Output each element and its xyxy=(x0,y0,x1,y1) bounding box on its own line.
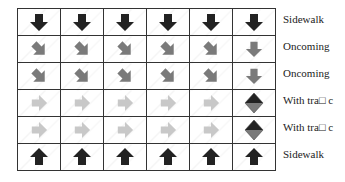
grid-cell xyxy=(104,90,147,117)
grid-cell xyxy=(104,36,147,63)
grid-cell xyxy=(233,36,276,63)
grid-cell xyxy=(104,63,147,90)
arrow-right-icon xyxy=(104,121,146,139)
arrow-diagonal-icon xyxy=(190,40,232,58)
grid-cell xyxy=(147,63,190,90)
arrow-right-icon xyxy=(147,121,189,139)
arrow-down-icon xyxy=(61,12,103,32)
arrow-down-icon xyxy=(147,12,189,32)
arrow-diagonal-icon xyxy=(147,40,189,58)
arrow-right-icon xyxy=(61,121,103,139)
grid-cell xyxy=(61,117,104,144)
grid-cell xyxy=(233,63,276,90)
grid-cell xyxy=(190,144,233,171)
grid-cell xyxy=(18,117,61,144)
grid-row xyxy=(18,36,276,63)
grid-cell xyxy=(61,63,104,90)
arrow-diagonal-icon xyxy=(104,40,146,58)
arrow-down-icon xyxy=(18,12,60,32)
grid-cell xyxy=(147,144,190,171)
grid-cell xyxy=(18,90,61,117)
grid-cell xyxy=(18,9,61,36)
grid-cell xyxy=(190,9,233,36)
grid-cell xyxy=(190,36,233,63)
arrow-down-icon xyxy=(190,12,232,32)
arrow-right-icon xyxy=(147,94,189,112)
row-label-oncoming-2: Oncoming xyxy=(283,67,329,79)
grid-cell xyxy=(147,117,190,144)
grid-cell xyxy=(147,90,190,117)
arrow-diagonal-icon xyxy=(18,40,60,58)
grid-row xyxy=(18,9,276,36)
grid-cell xyxy=(104,9,147,36)
arrow-diagonal-icon xyxy=(147,67,189,85)
arrow-down-icon xyxy=(233,67,275,85)
row-label-sidewalk-top: Sidewalk xyxy=(283,13,324,25)
arrow-up-icon xyxy=(190,147,232,167)
arrow-up-icon xyxy=(147,147,189,167)
grid-cell xyxy=(233,144,276,171)
arrow-diagonal-icon xyxy=(190,67,232,85)
grid-cell xyxy=(233,9,276,36)
diamond-icon xyxy=(233,119,275,141)
grid-cell xyxy=(147,9,190,36)
grid-cell xyxy=(18,144,61,171)
grid-cell xyxy=(190,63,233,90)
arrow-diagonal-icon xyxy=(61,40,103,58)
grid-cell xyxy=(104,144,147,171)
arrow-right-icon xyxy=(104,94,146,112)
arrow-up-icon xyxy=(233,147,275,167)
arrow-diagonal-icon xyxy=(18,67,60,85)
row-label-with-traffic-1: With tra□ c xyxy=(283,94,333,106)
arrow-up-icon xyxy=(104,147,146,167)
grid-row xyxy=(18,144,276,171)
grid-cell xyxy=(61,90,104,117)
grid-cell xyxy=(18,36,61,63)
diamond-icon xyxy=(233,92,275,114)
grid-cell xyxy=(190,117,233,144)
grid-row xyxy=(18,117,276,144)
grid-row xyxy=(18,63,276,90)
arrow-diagonal-icon xyxy=(61,67,103,85)
grid-cell xyxy=(190,90,233,117)
arrow-down-icon xyxy=(233,12,275,32)
grid-cell xyxy=(61,36,104,63)
arrow-right-icon xyxy=(18,121,60,139)
row-label-with-traffic-2: With tra□ c xyxy=(283,121,333,133)
arrow-right-icon xyxy=(190,121,232,139)
grid-cell xyxy=(61,144,104,171)
row-label-sidewalk-bottom: Sidewalk xyxy=(283,148,324,160)
row-label-oncoming-1: Oncoming xyxy=(283,40,329,52)
grid-cell xyxy=(61,9,104,36)
grid-cell xyxy=(233,117,276,144)
arrow-down-icon xyxy=(233,40,275,58)
arrow-diagonal-icon xyxy=(104,67,146,85)
arrow-right-icon xyxy=(190,94,232,112)
arrow-right-icon xyxy=(61,94,103,112)
arrow-down-icon xyxy=(104,12,146,32)
arrow-right-icon xyxy=(18,94,60,112)
grid-cell xyxy=(104,117,147,144)
lane-grid xyxy=(17,8,276,171)
grid-cell xyxy=(18,63,61,90)
arrow-up-icon xyxy=(61,147,103,167)
grid-cell xyxy=(233,90,276,117)
grid-row xyxy=(18,90,276,117)
grid-cell xyxy=(147,36,190,63)
arrow-up-icon xyxy=(18,147,60,167)
